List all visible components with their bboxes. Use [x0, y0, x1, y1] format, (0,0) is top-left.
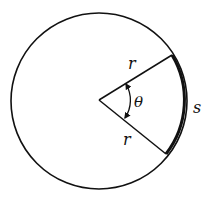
label-arc-s: s: [193, 98, 201, 117]
label-radius-lower: r: [123, 130, 132, 149]
circle-sector-diagram: r r θ s: [0, 0, 214, 198]
radius-line-lower: [99, 100, 166, 154]
circle-outline: [11, 13, 187, 189]
angle-arc: [125, 84, 130, 118]
label-radius-upper: r: [128, 54, 137, 73]
label-angle-theta: θ: [134, 93, 143, 111]
